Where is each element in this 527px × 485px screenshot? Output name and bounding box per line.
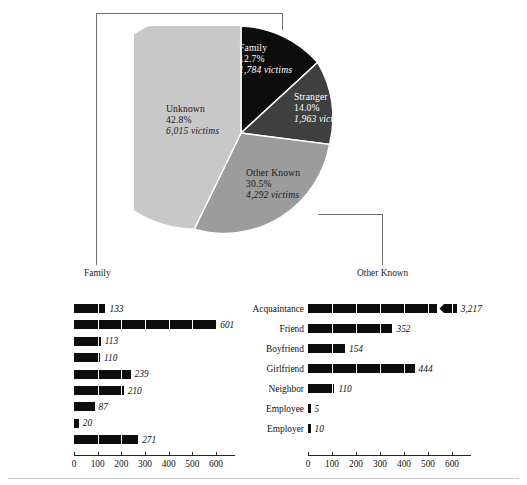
axis-break-icon bbox=[437, 304, 447, 313]
bar-segment-divider bbox=[428, 304, 429, 313]
bar-value-label: 110 bbox=[338, 384, 351, 394]
bar-category-label: Acquaintance bbox=[252, 304, 304, 314]
x-axis-tick bbox=[428, 452, 429, 455]
bar-value-label: 444 bbox=[419, 364, 433, 374]
bar-segment-divider bbox=[380, 364, 381, 373]
bar-value-label: 154 bbox=[349, 344, 363, 354]
x-axis-line bbox=[308, 455, 471, 456]
figure-root: Family Other Known Family 12.7% 1,784 vi… bbox=[0, 0, 527, 485]
bar bbox=[308, 404, 311, 413]
bar-segment-divider bbox=[356, 324, 357, 333]
bar bbox=[308, 344, 345, 353]
bar-category-label: Employee bbox=[266, 404, 304, 414]
bar-segment-divider bbox=[452, 304, 453, 313]
bar-category-label: Friend bbox=[280, 324, 304, 334]
x-axis-tick-label: 600 bbox=[438, 459, 466, 469]
bar bbox=[308, 384, 334, 393]
bar-segment-divider bbox=[332, 304, 333, 313]
x-axis-tick bbox=[380, 452, 381, 455]
bar-segment-divider bbox=[356, 364, 357, 373]
x-axis-tick bbox=[404, 452, 405, 455]
bar-segment-divider bbox=[404, 364, 405, 373]
bar-segment-divider bbox=[332, 324, 333, 333]
bar bbox=[308, 304, 457, 313]
bar-segment-divider bbox=[356, 304, 357, 313]
x-axis-tick bbox=[308, 452, 309, 455]
bar-segment-divider bbox=[332, 344, 333, 353]
bar-segment-divider bbox=[380, 304, 381, 313]
bar-segment-divider bbox=[332, 364, 333, 373]
bar bbox=[308, 364, 415, 373]
bar-value-label: 352 bbox=[396, 324, 410, 334]
x-axis-tick bbox=[452, 452, 453, 455]
bar-segment-divider bbox=[380, 324, 381, 333]
bar bbox=[308, 424, 311, 433]
bar-value-label: 3,217 bbox=[461, 304, 482, 314]
x-axis-tick bbox=[332, 452, 333, 455]
bar-value-label: 5 bbox=[315, 404, 320, 414]
bar-segment-divider bbox=[404, 304, 405, 313]
footer-divider bbox=[8, 478, 519, 479]
bar-category-label: Neighbor bbox=[269, 384, 304, 394]
bar-segment-divider bbox=[332, 384, 333, 393]
bar-category-label: Boyfriend bbox=[266, 344, 304, 354]
other-known-bar-chart: Acquaintance3,217Friend352Boyfriend154Gi… bbox=[0, 0, 527, 485]
bar-value-label: 10 bbox=[315, 424, 324, 434]
bar-category-label: Girlfriend bbox=[267, 364, 305, 374]
bar-category-label: Employer bbox=[267, 424, 304, 434]
x-axis-tick bbox=[356, 452, 357, 455]
